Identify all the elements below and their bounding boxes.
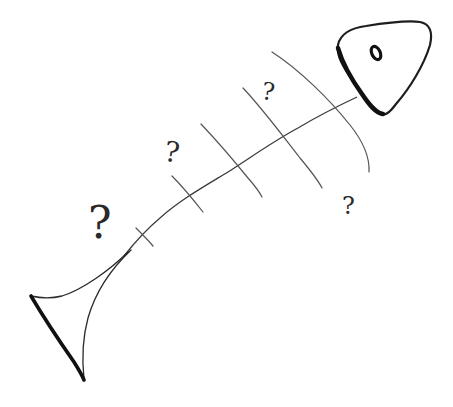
question-mark-3: ?: [88, 197, 112, 248]
fish-tail: [31, 250, 131, 380]
rib-3: [201, 124, 262, 197]
question-mark-2: ?: [162, 135, 181, 170]
rib-2: [243, 88, 322, 188]
fishbone-diagram: ? ? ? ?: [0, 0, 453, 407]
question-mark-1: ?: [260, 77, 277, 107]
fish-spine: [124, 97, 357, 256]
question-marks: ? ? ? ?: [88, 77, 355, 248]
fish-eye: [369, 45, 383, 61]
question-mark-4: ?: [342, 192, 355, 220]
rib-4: [172, 176, 203, 212]
rib-5: [136, 228, 153, 246]
fish-head: [338, 21, 431, 114]
rib-1: [272, 52, 369, 172]
